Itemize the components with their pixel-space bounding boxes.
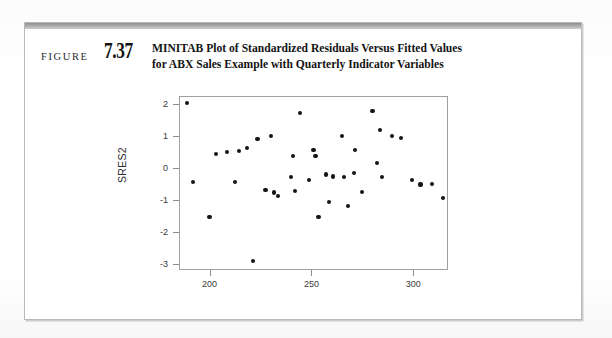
data-point (430, 182, 434, 186)
data-point (441, 196, 445, 200)
data-point (375, 161, 379, 165)
data-point (342, 175, 346, 179)
data-point (289, 175, 293, 179)
data-point (255, 137, 259, 141)
figure-container: FIGURE 7.37 MINITAB Plot of Standardized… (24, 22, 582, 320)
data-point (346, 204, 350, 208)
data-point (291, 154, 295, 158)
data-point (185, 101, 189, 105)
data-point (353, 148, 357, 152)
x-tick-label: 200 (202, 279, 217, 289)
data-point (370, 109, 374, 113)
data-point (269, 134, 273, 138)
data-point (298, 111, 302, 115)
data-point (340, 134, 344, 138)
plot-area (179, 96, 448, 270)
figure-title-line-1: MINITAB Plot of Standardized Residuals V… (152, 41, 552, 57)
x-tick-label: 250 (304, 279, 319, 289)
figure-caption: FIGURE 7.37 MINITAB Plot of Standardized… (25, 29, 581, 85)
x-tick-mark (413, 270, 414, 276)
data-point (191, 180, 195, 184)
figure-number: 7.37 (104, 37, 133, 64)
data-point (263, 188, 267, 192)
figure-page: FIGURE 7.37 MINITAB Plot of Standardized… (0, 0, 612, 338)
data-point (311, 148, 315, 152)
data-point (410, 178, 414, 182)
x-tick-label: 300 (406, 279, 421, 289)
data-point (225, 150, 229, 154)
data-point (245, 146, 249, 150)
data-point (360, 190, 364, 194)
data-point (327, 200, 331, 204)
data-point (378, 128, 382, 132)
data-point (316, 215, 320, 219)
data-point (313, 154, 317, 158)
data-point (352, 171, 356, 175)
data-point (399, 136, 403, 140)
figure-title-line-2: for ABX Sales Example with Quarterly Ind… (152, 57, 552, 73)
data-point (251, 259, 255, 263)
data-point (237, 149, 241, 153)
data-points-layer (180, 97, 447, 269)
data-point (293, 189, 297, 193)
figure-title: MINITAB Plot of Standardized Residuals V… (152, 41, 552, 72)
x-tick-mark (311, 270, 312, 276)
data-point (272, 190, 276, 194)
data-point (331, 174, 335, 178)
x-tick-mark (210, 270, 211, 276)
data-point (207, 215, 211, 219)
data-point (324, 172, 328, 176)
data-point (418, 182, 422, 186)
data-point (214, 152, 218, 156)
data-point (390, 134, 394, 138)
data-point (276, 194, 280, 198)
data-point (233, 180, 237, 184)
figure-label: FIGURE (41, 51, 89, 62)
data-point (380, 175, 384, 179)
scatter-chart: SRES2 210-1-2-3 200250300 (119, 87, 559, 313)
data-point (307, 178, 311, 182)
